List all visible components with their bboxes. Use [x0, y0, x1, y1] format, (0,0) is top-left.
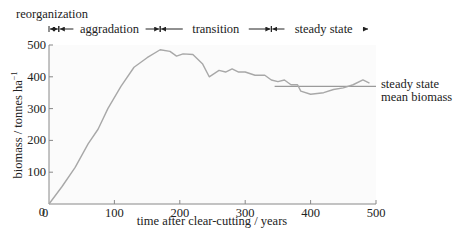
- phase-label-transition: transition: [192, 22, 240, 36]
- phase-label-aggradation: aggradation: [80, 22, 140, 36]
- y-tick-label: 500: [27, 38, 46, 52]
- annotation-steady-state: steady state: [381, 77, 439, 91]
- x-axis-label: time after clear-cutting / years: [137, 214, 288, 228]
- y-axis-label: biomass / tonnes ha−1: [10, 72, 25, 179]
- x-tick-label: 100: [105, 206, 124, 220]
- annotation-mean-biomass: mean biomass: [381, 90, 452, 104]
- y-tick-label: 300: [27, 102, 46, 116]
- y-tick-label: 200: [27, 133, 46, 147]
- phase-bar: aggradationtransitionsteady state: [49, 22, 368, 36]
- x-tick-label: 400: [301, 206, 320, 220]
- x-tick-label: 500: [367, 206, 386, 220]
- phase-label-reorganization: reorganization: [16, 7, 89, 21]
- y-tick-label: 400: [27, 70, 46, 84]
- x-tick-label: 0: [42, 206, 48, 220]
- plot-area: [49, 45, 376, 204]
- phase-label-steady-state: steady state: [295, 22, 353, 36]
- y-tick-label: 100: [27, 165, 46, 179]
- biomass-chart: aggradationtransitionsteady state reorga…: [0, 0, 470, 243]
